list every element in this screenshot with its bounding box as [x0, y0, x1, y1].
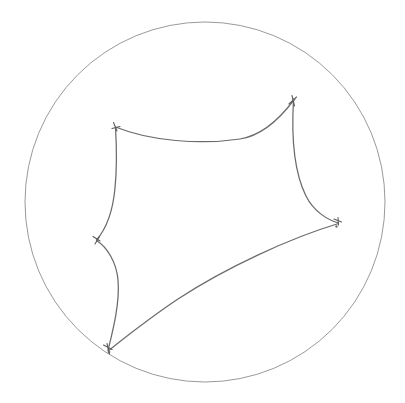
ideal-boundary-circle [25, 22, 385, 382]
vertex-marks-group [93, 96, 342, 355]
geodesic-edge-top [116, 101, 294, 142]
geodesic-edge-lower-left [97, 241, 119, 351]
vertex-mark-bottom [104, 344, 113, 355]
hyperbolic-geometry-figure [0, 0, 405, 403]
boundary-circle-group [25, 22, 385, 382]
figure-canvas [0, 0, 405, 403]
geodesic-edge-upper-left [97, 128, 117, 241]
geodesic-edge-right-upper [293, 100, 339, 223]
pentagon-edges-group [97, 100, 339, 351]
geodesic-edge-lower-right [109, 224, 339, 351]
